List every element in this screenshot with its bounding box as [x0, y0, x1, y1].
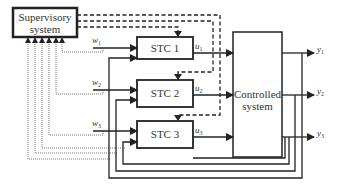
stc1-command-arrow-icon — [174, 31, 182, 37]
label-u1: u1 — [195, 41, 203, 52]
plant-outputs — [282, 53, 314, 137]
stc3-command-arrow-icon — [174, 115, 182, 121]
diagram-canvas: Supervisory system STC 1 STC 2 — [0, 0, 341, 187]
stc3-block: STC 3 — [137, 121, 193, 148]
controlled-label-line1: Controlled — [234, 88, 282, 100]
stc2-block: STC 2 — [137, 80, 193, 107]
supervisory-label-line1: Supervisory — [18, 11, 72, 23]
controlled-label-line2: system — [242, 100, 273, 112]
label-y2: y2 — [316, 86, 324, 97]
label-w1: w1 — [92, 35, 101, 46]
supervisory-label-line2: system — [30, 23, 61, 35]
supervisory-system-block: Supervisory system — [13, 8, 77, 37]
stc3-label: STC 3 — [151, 128, 180, 140]
label-u3: u3 — [195, 125, 203, 136]
label-w3: w3 — [92, 118, 101, 129]
label-w2: w2 — [92, 77, 101, 88]
stc1-block: STC 1 — [137, 37, 193, 59]
label-u2: u2 — [195, 83, 203, 94]
signal-labels: w1 w2 w3 u1 u2 u3 y1 y2 y3 — [92, 35, 324, 139]
stc2-command-arrow-icon — [174, 74, 182, 80]
label-y1: y1 — [316, 44, 324, 55]
stc1-label: STC 1 — [151, 42, 179, 54]
stc2-label: STC 2 — [151, 87, 179, 99]
reference-inputs — [93, 48, 137, 131]
label-y3: y3 — [316, 128, 324, 139]
controlled-system-block: Controlled system — [233, 32, 282, 157]
